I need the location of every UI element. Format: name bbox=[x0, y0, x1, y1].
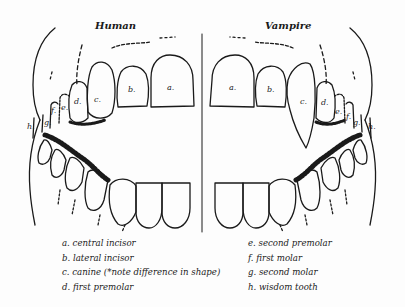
human-label-d: d. bbox=[74, 97, 82, 106]
human-label-b: b. bbox=[128, 85, 136, 94]
vampire-jaw bbox=[210, 28, 376, 232]
human-label-e: e. bbox=[61, 103, 68, 112]
human-label-a: a. bbox=[167, 83, 174, 92]
vampire-tooth-g bbox=[361, 115, 362, 132]
vampire-lower-4 bbox=[297, 170, 320, 210]
human-label-f: f. bbox=[51, 106, 56, 115]
vampire-lower-5 bbox=[321, 157, 340, 190]
vampire-label-b: b. bbox=[267, 85, 275, 94]
legend-left: a. central incisor b. lateral incisor c.… bbox=[62, 236, 220, 294]
vampire-lower-2 bbox=[243, 183, 269, 228]
human-lower-7 bbox=[38, 140, 52, 164]
vampire-label-f: f. bbox=[346, 112, 351, 121]
human-title: Human bbox=[95, 20, 136, 31]
human-tooth-g bbox=[42, 115, 43, 132]
legend-item: a. central incisor bbox=[62, 236, 220, 251]
legend-item: g. second molar bbox=[248, 265, 332, 280]
human-lower-1 bbox=[162, 183, 190, 228]
human-lower-5 bbox=[65, 157, 84, 190]
human-label-g: g. bbox=[44, 118, 52, 127]
legend-item: b. lateral incisor bbox=[62, 251, 220, 266]
vampire-label-e: e. bbox=[335, 107, 342, 116]
legend-item: f. first molar bbox=[248, 251, 332, 266]
vampire-lower-3 bbox=[269, 179, 296, 225]
teeth-comparison-diagram: Human Vampire a. b. c. d. e. f. g. h. a.… bbox=[0, 0, 405, 307]
vampire-tooth-a bbox=[210, 55, 254, 107]
vampire-label-a: a. bbox=[229, 83, 236, 92]
human-label-h: h. bbox=[27, 122, 35, 131]
legend-item: e. second premolar bbox=[248, 236, 332, 251]
human-tooth-a bbox=[151, 55, 194, 107]
human-jaw bbox=[29, 28, 194, 232]
human-label-c: c. bbox=[94, 95, 101, 104]
vampire-lower-7 bbox=[353, 140, 367, 164]
vampire-lower-1 bbox=[215, 183, 243, 228]
legend-item: d. first premolar bbox=[62, 280, 220, 295]
legend-right: e. second premolar f. first molar g. sec… bbox=[248, 236, 332, 294]
vampire-label-g: g. bbox=[353, 118, 361, 127]
vampire-lower-6 bbox=[339, 149, 354, 177]
human-lower-2 bbox=[136, 183, 162, 228]
vampire-title: Vampire bbox=[265, 20, 311, 31]
human-tooth-c bbox=[87, 62, 115, 118]
vampire-label-h: h. bbox=[368, 122, 376, 131]
human-lower-3 bbox=[109, 179, 136, 225]
vampire-label-d: d. bbox=[321, 98, 329, 107]
vampire-label-c: c. bbox=[300, 97, 307, 106]
human-lower-6 bbox=[51, 149, 66, 177]
legend-item: h. wisdom tooth bbox=[248, 280, 332, 295]
legend-item: c. canine (*note difference in shape) bbox=[62, 265, 220, 280]
human-lower-4 bbox=[85, 170, 108, 210]
